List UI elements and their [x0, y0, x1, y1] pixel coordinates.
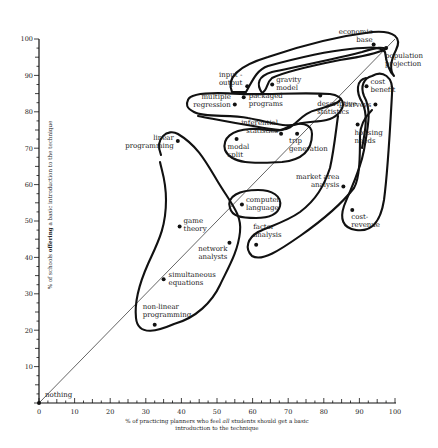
- y-tick-label: 100: [21, 35, 33, 43]
- label-trip-generation: tripgeneration: [289, 137, 328, 153]
- label-packaged-programs: packagedprograms: [249, 92, 284, 108]
- label-network-analysts: networkanalysts: [198, 245, 228, 261]
- label-economic-base: economicbase: [339, 28, 373, 44]
- point-multiple-regression: [233, 103, 237, 107]
- point-cost-revenue: [350, 208, 354, 212]
- y-tick-label: 20: [25, 327, 33, 335]
- label-nothing: nothing: [45, 391, 73, 399]
- label-housing-needs: housingneeds: [355, 129, 384, 145]
- x-axis-title-line2: introduction to the technique: [175, 425, 259, 432]
- point-population-projection: [384, 46, 388, 50]
- x-tick-label: 80: [320, 408, 328, 416]
- x-tick-label: 30: [142, 408, 150, 416]
- point-modal-split: [235, 137, 239, 141]
- label-inferential-statistics: inferentialstatistics: [241, 119, 279, 135]
- point-computer-language: [240, 203, 244, 207]
- label-input-output: input -output: [219, 71, 243, 87]
- y-tick-label: 60: [25, 181, 33, 189]
- point-packaged-programs: [242, 95, 246, 99]
- y-axis: 102030405060708090100: [21, 35, 39, 403]
- point-housing-needs: [356, 123, 360, 127]
- x-tick-label: 0: [37, 408, 41, 416]
- x-tick-label: 100: [389, 408, 401, 416]
- point-game-theory: [178, 224, 182, 228]
- x-tick-label: 50: [213, 408, 221, 416]
- x-tick-label: 70: [284, 408, 292, 416]
- point-non-linear-programming: [153, 323, 157, 327]
- x-axis: 0102030405060708090100: [37, 398, 401, 416]
- cluster-cost: [342, 74, 392, 231]
- label-descriptive-statistics: descriptivestatistics: [317, 100, 356, 116]
- point-trip-generation: [295, 132, 299, 136]
- x-tick-label: 20: [106, 408, 114, 416]
- x-tick-label: 90: [355, 408, 363, 416]
- point-descriptive-statistics: [318, 93, 322, 97]
- point-simultaneous-equations: [162, 277, 166, 281]
- point-input-output: [245, 84, 249, 88]
- point-network-analysts: [227, 241, 231, 245]
- y-tick-label: 90: [25, 72, 33, 80]
- y-axis-title: % of schools offering a basic introducti…: [47, 120, 54, 289]
- point-surveys: [373, 103, 377, 107]
- label-population-projection: populationprojection: [385, 52, 423, 68]
- label-cost-revenue: cost-revenue: [351, 213, 380, 229]
- label-modal-split: modalsplit: [228, 143, 251, 159]
- y-tick-label: 30: [25, 290, 33, 298]
- x-tick-label: 40: [177, 408, 185, 416]
- scatter-chart: 102030405060708090100 010203040506070809…: [0, 0, 438, 448]
- y-tick-label: 50: [25, 217, 33, 225]
- point-inferential-statistics: [279, 132, 283, 136]
- y-tick-label: 80: [25, 108, 33, 116]
- label-computer-language: computerlanguage: [246, 196, 281, 212]
- label-cost-benefit: costbenefit: [371, 78, 396, 94]
- point-cost-benefit: [365, 84, 369, 88]
- x-tick-label: 60: [248, 408, 256, 416]
- data-points: nothingeconomicbasepopulationprojectionc…: [37, 28, 423, 405]
- point-market-area-analysis: [341, 184, 345, 188]
- x-tick-label: 10: [70, 408, 78, 416]
- label-gravity-model: gravitymodel: [276, 76, 301, 92]
- point-factor-analysis: [254, 243, 258, 247]
- label-market-area-analysis: market areaanalysis: [296, 173, 340, 189]
- label-non-linear-programming: non-linearprogramming: [143, 303, 192, 319]
- point-nothing: [37, 401, 41, 405]
- label-game-theory: gametheory: [184, 217, 207, 233]
- y-tick-label: 40: [25, 254, 33, 262]
- y-tick-label: 70: [25, 145, 33, 153]
- label-simultaneous-equations: simultaneousequations: [169, 271, 217, 287]
- label-factor-analysis: factoranalysis: [253, 223, 282, 239]
- x-axis-title: % of practicing planners who feel all st…: [125, 418, 308, 425]
- point-linear-programming: [176, 139, 180, 143]
- label-linear-programming: linearprogramming: [125, 134, 174, 150]
- y-tick-label: 10: [25, 363, 33, 371]
- point-gravity-model: [270, 83, 274, 87]
